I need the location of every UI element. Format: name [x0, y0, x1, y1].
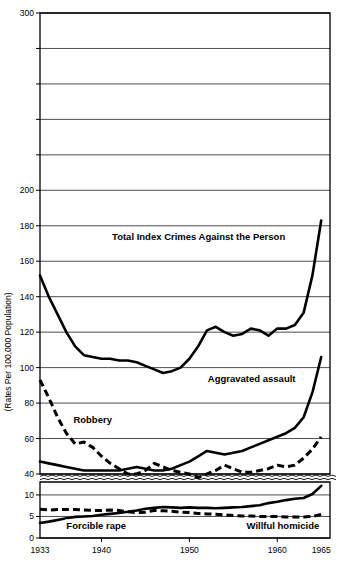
break-wave-top: [40, 475, 336, 476]
y-tick-label-60: 60: [25, 434, 35, 444]
series-label-aggravated-assault: Aggravated assault: [208, 373, 296, 384]
y-tick-label-200: 200: [20, 185, 34, 195]
x-tick-label-1933: 1933: [31, 545, 50, 555]
series-label-robbery: Robbery: [73, 414, 112, 425]
x-tick-label-1950: 1950: [180, 545, 199, 555]
y-tick-label-lower-10: 10: [25, 490, 35, 500]
y-tick-label-lower-0: 0: [29, 533, 34, 543]
series-line-robbery: [40, 380, 321, 478]
y-tick-label-40: 40: [25, 469, 35, 479]
y-tick-label-lower-5: 5: [29, 511, 34, 521]
y-tick-label-100: 100: [20, 363, 34, 373]
crime-rate-line-chart: 4060801001201401601802003000510 19331940…: [0, 0, 349, 568]
plot-frames: [40, 13, 330, 538]
y-tick-label-80: 80: [25, 398, 35, 408]
upper-plot-frame: [40, 13, 330, 474]
x-tick-label-1960: 1960: [268, 545, 287, 555]
x-tick-label-1965: 1965: [312, 545, 331, 555]
y-tick-label-120: 120: [20, 327, 34, 337]
break-wave-bottom: [40, 478, 336, 479]
series-label-willful-homicide: Willful homicide: [247, 520, 320, 531]
y-tick-label-140: 140: [20, 292, 34, 302]
series-label-forcible-rape: Forcible rape: [66, 520, 126, 531]
y-tick-label-160: 160: [20, 256, 34, 266]
y-axis-title: (Rates Per 100,000 Population): [3, 292, 13, 411]
chart-canvas: 4060801001201401601802003000510 19331940…: [0, 0, 349, 568]
x-tick-label-1940: 1940: [92, 545, 111, 555]
series-label-total-index-crimes-against-the-person: Total Index Crimes Against the Person: [112, 231, 285, 242]
y-tick-label-180: 180: [20, 221, 34, 231]
y-tick-label-300: 300: [20, 8, 34, 18]
axis-break-marker: [40, 475, 336, 480]
y-axis-tick-labels: 4060801001201401601802003000510: [20, 8, 40, 543]
x-axis-tick-labels: 19331940195019601965: [31, 538, 331, 555]
upper-panel-gridlines: [40, 13, 330, 474]
series-line-forcible-rape: [40, 486, 321, 523]
data-series-group: [40, 220, 321, 522]
series-annotation-labels: Total Index Crimes Against the PersonAgg…: [65, 230, 321, 531]
